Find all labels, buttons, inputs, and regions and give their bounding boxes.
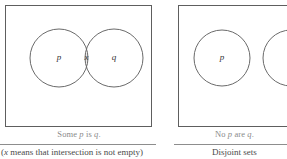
caption-divider-right — [174, 144, 287, 145]
venn-svg-left: p x q — [0, 0, 158, 132]
caption-primary-left-post: . — [98, 129, 100, 139]
set-label-p: p — [56, 52, 62, 62]
set-label-p: p — [219, 52, 225, 62]
caption-secondary-left: (x means that intersection is not empty) — [1, 147, 157, 157]
caption-primary-right-pre: No — [215, 129, 228, 139]
venn-diagram-figure: p x q Some p is q. (x means that interse… — [0, 0, 287, 159]
panel-some-p-is-q: p x q Some p is q. (x means that interse… — [0, 0, 158, 159]
caption-primary-left: Some p is q. — [0, 129, 158, 139]
caption-secondary-right: Disjoint sets — [172, 147, 287, 157]
panel-no-p-are-q: p No p are q. Disjoint sets — [172, 0, 287, 159]
caption-primary-left-pre: Some — [57, 129, 79, 139]
set-label-q: q — [112, 52, 117, 62]
set-circle-q — [263, 30, 287, 86]
caption-secondary-right-post: Disjoint sets — [212, 147, 257, 157]
caption-primary-right-mid: are — [232, 129, 247, 139]
caption-primary-left-mid: is — [84, 129, 94, 139]
set-label-x: x — [84, 52, 89, 62]
caption-primary-right-post: . — [252, 129, 254, 139]
venn-svg-right: p — [172, 0, 287, 132]
caption-secondary-left-post: means that intersection is not empty) — [8, 147, 143, 157]
caption-divider-left — [0, 144, 156, 145]
caption-primary-right: No p are q. — [172, 129, 287, 139]
